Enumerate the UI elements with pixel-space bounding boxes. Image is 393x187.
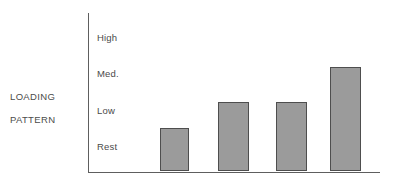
bar-1 <box>160 128 189 172</box>
bar-chart: LOADING PATTERN High Med. Low Rest <box>0 0 393 187</box>
y-axis-title-line-2: PATTERN <box>10 114 55 125</box>
bar-4 <box>330 67 361 172</box>
y-axis-title-line-1: LOADING <box>10 91 55 102</box>
bar-3 <box>276 102 307 172</box>
bar-2 <box>218 102 249 172</box>
bars-layer <box>88 13 380 172</box>
plot-area: High Med. Low Rest <box>88 13 380 173</box>
y-axis-title: LOADING PATTERN <box>10 79 84 125</box>
